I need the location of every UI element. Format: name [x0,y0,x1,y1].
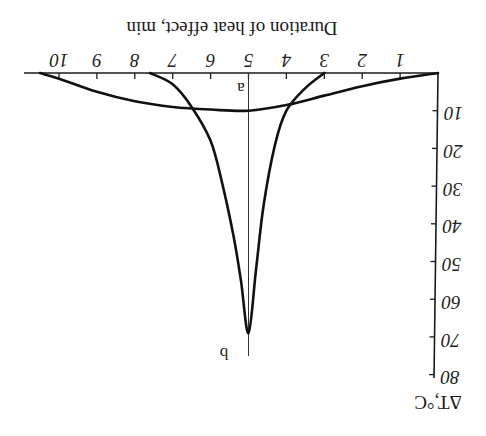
chart: 12345678910 1020304050607080 a b Duratio… [0,0,486,436]
y-tick-label: 40 [442,216,462,237]
x-axis-title: Duration of heat effect, min [126,18,338,39]
y-tick-label: 60 [441,292,461,313]
x-tick-label: 10 [49,50,69,71]
y-tick-label: 20 [443,141,463,162]
x-tick-label: 2 [357,50,367,71]
x-tick-label: 1 [395,50,405,71]
x-tick-label: 9 [92,50,102,71]
y-tick-label: 50 [442,254,462,275]
curve-a-label: a [237,79,245,98]
y-axis [434,73,438,378]
y-axis-title: ΔT,°C [414,392,461,413]
x-tick-label: 7 [166,50,177,71]
y-tick-label: 30 [443,179,464,200]
y-tick-label: 70 [441,330,461,351]
x-tick-label: 3 [320,50,331,71]
x-tick-label: 4 [281,50,291,71]
curve-b-label: b [220,344,229,363]
y-tick-label: 80 [440,367,460,388]
x-tick-label: 8 [130,50,140,71]
x-ticks: 12345678910 [49,50,405,79]
x-tick-label: 6 [205,50,215,71]
y-tick-label: 10 [444,103,464,124]
x-tick-label: 5 [244,50,254,71]
